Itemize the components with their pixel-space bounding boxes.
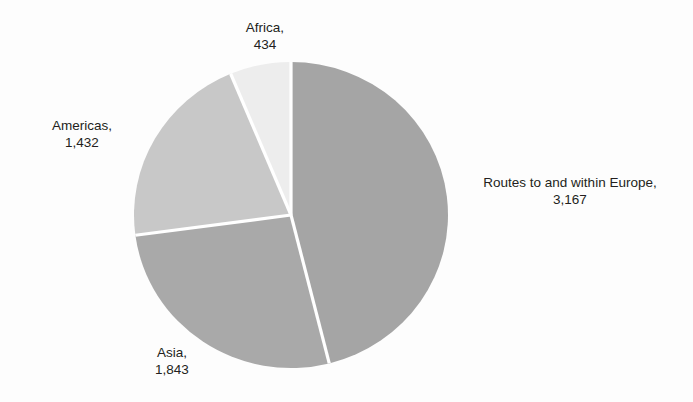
slice-label-europe-value: 3,167 <box>450 192 690 209</box>
slice-label-europe-name: Routes to and within Europe, <box>450 175 690 192</box>
slice-label-africa-name: Africa, <box>197 20 333 37</box>
slice-label-asia-name: Asia, <box>109 345 235 362</box>
slice-label-americas-name: Americas, <box>16 118 148 135</box>
slice-label-europe: Routes to and within Europe, 3,167 <box>450 175 690 208</box>
slice-label-africa-value: 434 <box>197 37 333 54</box>
pie-chart: Africa, 434 Americas, 1,432 Asia, 1,843 … <box>0 0 693 402</box>
slice-label-asia-value: 1,843 <box>109 362 235 379</box>
slice-label-asia: Asia, 1,843 <box>109 345 235 378</box>
pie-plot-area: Africa, 434 Americas, 1,432 Asia, 1,843 … <box>0 0 693 402</box>
slice-label-americas-value: 1,432 <box>16 135 148 152</box>
slice-label-americas: Americas, 1,432 <box>16 118 148 151</box>
slice-label-africa: Africa, 434 <box>197 20 333 53</box>
